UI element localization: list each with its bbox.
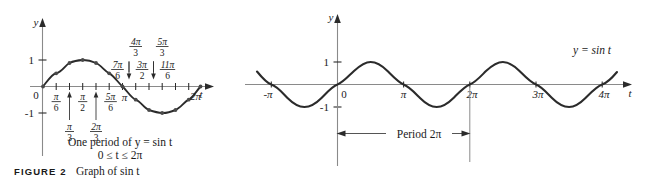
figure-svg: y t 1 -1 0 xyxy=(0,0,658,184)
left-label-seven-pi-over-6-num: 7π xyxy=(113,60,123,70)
left-label-pi-over-2-den: 2 xyxy=(80,103,85,113)
right-ytick-label-1: 1 xyxy=(324,56,330,68)
left-label-seven-pi-over-6-den: 6 xyxy=(115,71,120,81)
right-xtick-label-pi: π xyxy=(401,88,407,100)
left-label-eleven-pi-over-6-num: 11π xyxy=(161,60,175,70)
left-label-five-pi-over-3-num: 5π xyxy=(157,37,167,47)
left-label-pi-over-3-num: π xyxy=(67,122,72,132)
left-label-two-pi-over-3-num: 2π xyxy=(91,122,101,132)
left-label-four-pi-over-3-den: 3 xyxy=(133,48,138,58)
left-origin-label: 0 xyxy=(33,89,39,101)
left-label-three-pi-over-2-num: 3π xyxy=(136,60,147,70)
left-label-eleven-pi-over-6-den: 6 xyxy=(165,71,170,81)
left-label-pi-over-6-den: 6 xyxy=(54,103,59,113)
left-label-three-pi-over-2-den: 2 xyxy=(140,71,145,81)
figure-number-label: FIGURE 2 xyxy=(14,166,67,177)
left-y-axis-label: y xyxy=(33,16,39,28)
left-label-four-pi-over-3-num: 4π xyxy=(131,37,141,47)
left-label-two-pi: 2π xyxy=(190,90,202,102)
period-label: Period 2π xyxy=(397,128,442,140)
left-label-pi-over-6-num: π xyxy=(54,92,59,102)
left-ytick-label-1: 1 xyxy=(29,54,35,66)
right-xtick-label-neg-pi: -π xyxy=(263,88,273,100)
left-label-five-pi-over-3-den: 3 xyxy=(160,48,165,58)
figure-caption: FIGURE 2 Graph of sin t xyxy=(14,165,140,178)
left-caption-line1: One period of y = sin t xyxy=(68,136,173,149)
left-caption-line2: 0 ≤ t ≤ 2π xyxy=(98,149,143,161)
left-label-pi-over-2-num: π xyxy=(80,92,85,102)
right-curve-label: y = sin t xyxy=(572,44,612,57)
figure-root: y t 1 -1 0 xyxy=(0,0,658,184)
left-label-five-pi-over-6-num: 5π xyxy=(106,92,116,102)
right-ytick-label-neg1: -1 xyxy=(320,101,329,113)
left-ytick-label-neg1: -1 xyxy=(25,107,34,119)
right-xtick-label-4pi: 4π xyxy=(598,88,610,100)
left-label-five-pi-over-6-den: 6 xyxy=(108,103,113,113)
right-xtick-label-2pi: 2π xyxy=(466,88,478,100)
figure-caption-text: Graph of sin t xyxy=(76,165,140,178)
right-y-axis-label: y xyxy=(328,11,334,23)
left-label-pi: π xyxy=(122,91,128,103)
right-xtick-label-0: 0 xyxy=(341,88,347,100)
